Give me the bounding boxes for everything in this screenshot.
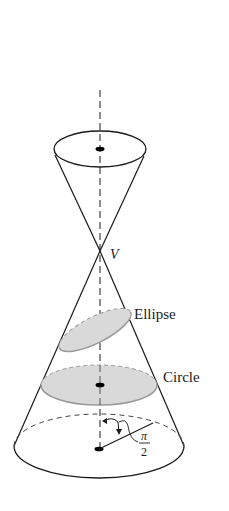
lower-nappe-right-side bbox=[100, 251, 184, 446]
angle-label-denominator: 2 bbox=[141, 445, 147, 459]
arc-arrow-top bbox=[102, 418, 107, 424]
vertex-label: V bbox=[110, 247, 120, 262]
circle-label: Circle bbox=[163, 369, 200, 385]
circle-center-dot bbox=[96, 383, 105, 388]
lower-nappe-left-side bbox=[14, 251, 100, 446]
upper-nappe-right-side bbox=[100, 156, 144, 251]
upper-center-dot bbox=[96, 147, 105, 152]
ellipse-section bbox=[53, 300, 136, 359]
ellipse-label: Ellipse bbox=[134, 306, 176, 322]
cone-diagram: V Ellipse Circle π 2 bbox=[0, 0, 229, 511]
arc-arrow-bottom bbox=[116, 429, 122, 435]
upper-nappe-left-side bbox=[55, 155, 100, 251]
angle-label-numerator: π bbox=[141, 429, 148, 443]
base-rim-back bbox=[14, 414, 184, 446]
